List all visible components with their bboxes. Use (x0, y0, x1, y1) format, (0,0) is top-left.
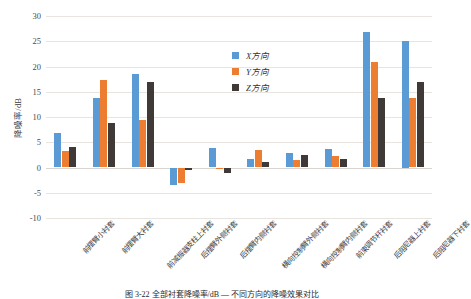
legend-swatch (232, 52, 239, 59)
x-axis-category-label: 后阻尼器下衬套 (431, 220, 471, 260)
legend-swatch (232, 68, 239, 75)
bar (409, 98, 416, 167)
y-axis-tick-label: 15 (33, 88, 42, 97)
y-axis-tick-label: 10 (33, 113, 42, 122)
bar-group (286, 16, 308, 218)
bar-group (325, 16, 347, 218)
bar (108, 123, 115, 168)
bar (93, 98, 100, 168)
x-axis-category-label: 前摆臂小衬套 (82, 220, 117, 255)
y-axis-tick-label: -10 (30, 214, 41, 223)
bar (417, 82, 424, 167)
bar (402, 41, 409, 167)
gridline (46, 218, 432, 219)
bar (170, 168, 177, 186)
bar-group (132, 16, 154, 218)
bar (247, 159, 254, 168)
bar (371, 62, 378, 167)
legend-label: Y方向 (246, 65, 269, 77)
bar (178, 168, 185, 183)
bar (216, 168, 223, 169)
y-axis-tick-label: 20 (33, 62, 42, 71)
bar-group (209, 16, 231, 218)
bar (132, 74, 139, 167)
chart-legend: X方向Y方向Z方向 (232, 47, 269, 95)
x-axis-category-label: 后摆臂内侧衬套 (238, 220, 278, 260)
y-axis-tick-label: 25 (33, 37, 42, 46)
x-axis-category-label: 前摆臂大衬套 (120, 220, 155, 255)
legend-item: X方向 (232, 47, 269, 63)
bar (54, 133, 61, 168)
bar (286, 153, 293, 168)
bar (340, 159, 347, 167)
bar (224, 168, 231, 173)
bar-group (54, 16, 76, 218)
bar (147, 82, 154, 167)
bar-group (93, 16, 115, 218)
bar (325, 149, 332, 168)
bar (62, 151, 69, 168)
y-axis-title: 降噪率/dB (11, 63, 23, 173)
bar (139, 120, 146, 167)
bar (262, 162, 269, 167)
legend-swatch (232, 84, 239, 91)
bar (301, 155, 308, 167)
bar (69, 147, 76, 167)
bar-group (170, 16, 192, 218)
bar-group (363, 16, 385, 218)
bar (100, 80, 107, 168)
legend-label: Z方向 (246, 81, 269, 93)
y-axis-tick-label: -5 (34, 189, 41, 198)
legend-item: Z方向 (232, 79, 269, 95)
legend-item: Y方向 (232, 63, 269, 79)
figure-caption: 图 3-22 全部衬套降噪率/dB — 不同方向的降噪效果对比 (0, 288, 444, 299)
bar (363, 32, 370, 167)
bar (378, 98, 385, 168)
bar (255, 150, 262, 167)
bar (185, 168, 192, 171)
y-axis-tick-label: 5 (37, 138, 41, 147)
bar (332, 156, 339, 167)
y-axis-tick-label: 0 (37, 163, 41, 172)
bar (209, 148, 216, 168)
bar (293, 160, 300, 168)
y-axis-tick-label: 30 (33, 12, 42, 21)
x-axis-category-label: 后阻尼器上衬套 (392, 220, 432, 260)
legend-label: X方向 (246, 49, 269, 61)
bar-group (402, 16, 424, 218)
